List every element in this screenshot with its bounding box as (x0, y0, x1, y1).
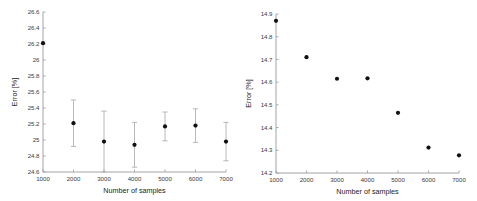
data-point-marker (304, 55, 308, 59)
x-tick-label: 1000 (36, 175, 50, 182)
data-point-marker (365, 76, 369, 80)
data-point-marker (71, 121, 75, 125)
x-tick-label: 1000 (269, 176, 283, 183)
x-tick-label: 3000 (330, 176, 344, 183)
x-tick-label: 7000 (452, 176, 466, 183)
chart-panel-left: 24.624.82525.225.425.625.82626.226.426.6… (0, 0, 240, 201)
data-point-marker (426, 145, 430, 149)
y-axis-title: Error [%] (244, 79, 253, 107)
data-point-marker (193, 124, 197, 128)
figure: 24.624.82525.225.425.625.82626.226.426.6… (0, 0, 477, 201)
y-tick-label: 14.6 (261, 78, 273, 85)
y-tick-label: 26.6 (28, 8, 40, 15)
y-tick-label: 14.8 (261, 33, 273, 40)
x-tick-label: 6000 (422, 176, 436, 183)
y-tick-label: 14.3 (261, 146, 273, 153)
y-tick-label: 24.8 (28, 152, 40, 159)
data-point-marker (224, 140, 228, 144)
plot-area-left: 24.624.82525.225.425.625.82626.226.426.6… (0, 0, 240, 201)
chart-panel-right: 14.214.314.414.514.614.714.814.910002000… (240, 0, 477, 201)
y-tick-label: 26.4 (28, 24, 40, 31)
data-point-marker (457, 153, 461, 157)
data-point-marker (274, 19, 278, 23)
y-tick-label: 14.9 (261, 10, 273, 17)
data-point-marker (335, 77, 339, 81)
y-tick-label: 26.2 (28, 40, 40, 47)
x-tick-label: 3000 (97, 175, 111, 182)
x-axis-title: Number of samples (103, 186, 166, 195)
y-tick-label: 14.4 (261, 124, 273, 131)
y-tick-label: 25 (33, 136, 40, 143)
y-tick-label: 14.7 (261, 56, 273, 63)
x-tick-label: 4000 (128, 175, 142, 182)
x-tick-label: 5000 (391, 176, 405, 183)
y-tick-label: 25.4 (28, 104, 40, 111)
y-axis-title: Error [%] (10, 78, 19, 106)
y-tick-label: 26 (33, 56, 40, 63)
data-point-marker (102, 140, 106, 144)
x-tick-label: 6000 (189, 175, 203, 182)
data-point-marker (396, 111, 400, 115)
data-point-marker (163, 124, 167, 128)
x-tick-label: 2000 (300, 176, 314, 183)
y-tick-label: 14.5 (261, 101, 273, 108)
data-point-marker (41, 41, 45, 45)
x-tick-label: 7000 (219, 175, 233, 182)
data-point-marker (132, 143, 136, 147)
x-axis-title: Number of samples (336, 187, 399, 196)
x-tick-label: 4000 (361, 176, 375, 183)
y-tick-label: 25.6 (28, 88, 40, 95)
y-tick-label: 25.2 (28, 120, 40, 127)
y-tick-label: 25.8 (28, 72, 40, 79)
x-tick-label: 5000 (158, 175, 172, 182)
x-tick-label: 2000 (67, 175, 81, 182)
plot-area-right: 14.214.314.414.514.614.714.814.910002000… (240, 0, 477, 201)
